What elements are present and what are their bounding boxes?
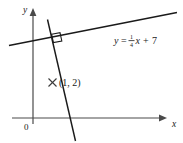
equation-equals: = <box>121 35 127 46</box>
equation-lhs: y <box>113 35 119 46</box>
equation-fraction-numerator: 1 <box>130 34 133 40</box>
right-angle-square-icon <box>52 33 62 43</box>
origin-label: 0 <box>24 122 29 132</box>
equation-constant: 7 <box>152 35 157 46</box>
equation-fraction-denominator: 4 <box>130 42 133 48</box>
x-axis-arrow-icon <box>159 115 167 122</box>
y-axis-label: y <box>22 5 28 15</box>
point-coordinate-label: (1, 2) <box>59 77 81 89</box>
equation-label: y = 1 4 x + 7 <box>113 34 157 48</box>
y-axis-arrow-icon <box>30 8 37 16</box>
coordinate-plane-svg: y x 0 (1, 2) y = 1 4 x + 7 <box>0 0 183 143</box>
point-cross-marker-icon <box>49 79 57 87</box>
x-axis-label: x <box>171 119 177 129</box>
equation-plus: + <box>143 35 149 46</box>
equation-variable: x <box>135 35 141 46</box>
geometry-figure: y x 0 (1, 2) y = 1 4 x + 7 <box>0 0 183 143</box>
